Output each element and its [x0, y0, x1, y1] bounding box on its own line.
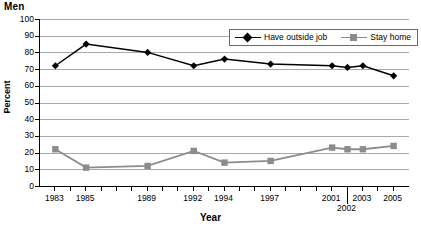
- data-point-diamond: [144, 49, 151, 56]
- data-point-square: [267, 158, 273, 164]
- data-point-square: [360, 146, 366, 152]
- data-point-square: [390, 143, 396, 149]
- legend-label: Stay home: [370, 32, 411, 42]
- x-tick-label: 1985: [65, 193, 105, 203]
- page-title: Men: [4, 1, 25, 12]
- x-tick-mark: [85, 187, 86, 191]
- x-axis-title: Year: [0, 212, 421, 223]
- x-tick-mark: [147, 187, 148, 191]
- x-tick-mark: [101, 187, 102, 191]
- x-tick-label: 1989: [127, 193, 167, 203]
- grid-line: [40, 186, 409, 187]
- x-tick-label: 2005: [373, 193, 413, 203]
- legend: Have outside job Stay home: [229, 29, 418, 46]
- data-point-diamond: [359, 62, 366, 69]
- data-point-diamond: [221, 55, 228, 62]
- square-marker-icon: [341, 33, 367, 42]
- x-tick-mark: [116, 187, 117, 191]
- y-tick-label: 0: [10, 182, 34, 191]
- x-tick-mark: [224, 187, 225, 191]
- legend-label: Have outside job: [264, 32, 327, 42]
- y-tick-label: 40: [10, 115, 34, 124]
- x-tick-mark: [377, 187, 378, 191]
- y-tick-label: 90: [10, 31, 34, 40]
- data-point-square: [221, 159, 227, 165]
- x-tick-mark: [177, 187, 178, 191]
- x-tick-mark: [70, 187, 71, 191]
- x-tick-mark: [285, 187, 286, 191]
- axis-label-separator: [347, 191, 348, 204]
- y-tick-label: 100: [10, 15, 34, 24]
- data-point-square: [344, 146, 350, 152]
- y-tick-label: 20: [10, 148, 34, 157]
- y-tick-label: 70: [10, 65, 34, 74]
- x-tick-mark: [270, 187, 271, 191]
- data-point-diamond: [329, 62, 336, 69]
- legend-item-have-outside-job[interactable]: Have outside job: [235, 32, 327, 42]
- chart-figure: Men Percent 1009080706050403020100 Have …: [0, 0, 421, 230]
- plot-area: Have outside job Stay home: [39, 19, 409, 187]
- y-tick-label: 60: [10, 81, 34, 90]
- x-tick-mark: [239, 187, 240, 191]
- data-point-diamond: [344, 64, 351, 71]
- data-point-diamond: [267, 60, 274, 67]
- data-point-diamond: [390, 72, 397, 79]
- data-point-square: [329, 144, 335, 150]
- y-tick-label: 50: [10, 98, 34, 107]
- x-tick-mark: [331, 187, 332, 191]
- x-tick-mark: [54, 187, 55, 191]
- data-point-square: [191, 148, 197, 154]
- x-tick-label: 1994: [204, 193, 244, 203]
- y-tick-label: 80: [10, 48, 34, 57]
- y-tick-label: 30: [10, 131, 34, 140]
- x-tick-mark: [162, 187, 163, 191]
- x-tick-mark: [254, 187, 255, 191]
- x-tick-mark: [362, 187, 363, 191]
- x-tick-label: 1997: [250, 193, 290, 203]
- data-point-diamond: [190, 62, 197, 69]
- y-tick-label: 10: [10, 165, 34, 174]
- data-point-square: [52, 146, 58, 152]
- legend-item-stay-home[interactable]: Stay home: [341, 32, 411, 42]
- x-tick-mark: [193, 187, 194, 191]
- x-tick-mark: [131, 187, 132, 191]
- data-point-square: [83, 164, 89, 170]
- x-tick-mark: [393, 187, 394, 191]
- x-tick-mark: [208, 187, 209, 191]
- data-point-square: [144, 163, 150, 169]
- x-tick-mark: [316, 187, 317, 191]
- diamond-marker-icon: [235, 33, 261, 42]
- x-tick-mark: [300, 187, 301, 191]
